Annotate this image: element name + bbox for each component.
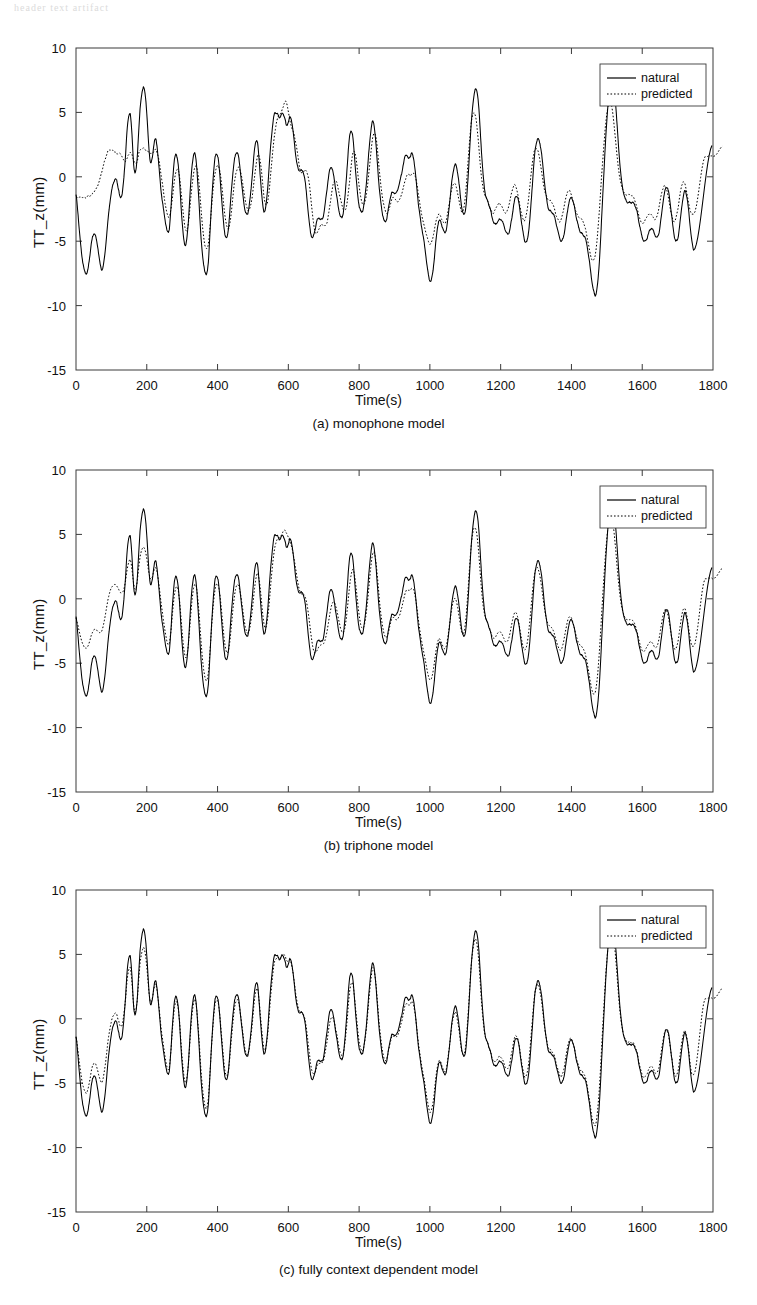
y-tick-label: -15 <box>47 1205 66 1220</box>
panel-a-ylabel: TT_z(mm) <box>30 176 47 248</box>
legend-label-natural: natural <box>641 913 679 927</box>
panel-c-plot: 0200400600800100012001400160018001050-5-… <box>0 842 757 1242</box>
panel-c-ylabel: TT_z(mm) <box>30 1018 47 1090</box>
y-tick-label: 5 <box>59 105 66 120</box>
y-tick-label: -5 <box>54 656 66 671</box>
x-tick-label: 1600 <box>628 378 657 393</box>
x-tick-label: 1400 <box>557 800 586 815</box>
x-tick-label: 0 <box>72 1220 79 1235</box>
panel-c: 0200400600800100012001400160018001050-5-… <box>0 842 757 1292</box>
x-tick-label: 600 <box>277 1220 299 1235</box>
legend-label-natural: natural <box>641 493 679 507</box>
y-tick-label: 0 <box>59 170 66 185</box>
panel-b-xlabel: Time(s) <box>0 814 757 830</box>
y-tick-label: 10 <box>52 883 66 898</box>
panel-b-plot: 0200400600800100012001400160018001050-5-… <box>0 422 757 822</box>
chart-svg: 0200400600800100012001400160018001050-5-… <box>0 842 757 1242</box>
x-tick-label: 1800 <box>699 378 728 393</box>
x-tick-label: 1200 <box>486 1220 515 1235</box>
x-tick-label: 1000 <box>415 1220 444 1235</box>
series-natural <box>76 499 712 718</box>
series-natural <box>76 77 712 296</box>
y-tick-label: -10 <box>47 721 66 736</box>
x-tick-label: 1200 <box>486 800 515 815</box>
x-tick-label: 1600 <box>628 800 657 815</box>
panel-a: 0200400600800100012001400160018001050-5-… <box>0 0 757 440</box>
x-tick-label: 200 <box>136 800 158 815</box>
panel-c-caption: (c) fully context dependent model <box>0 1262 757 1277</box>
legend: naturalpredicted <box>600 906 706 948</box>
y-tick-label: 0 <box>59 1012 66 1027</box>
x-tick-label: 1000 <box>415 378 444 393</box>
y-tick-label: -10 <box>47 1141 66 1156</box>
x-tick-label: 400 <box>207 378 229 393</box>
chart-svg: 0200400600800100012001400160018001050-5-… <box>0 422 757 822</box>
legend: naturalpredicted <box>600 486 706 528</box>
legend-label-predicted: predicted <box>641 509 692 523</box>
x-tick-label: 1000 <box>415 800 444 815</box>
x-tick-label: 200 <box>136 1220 158 1235</box>
legend-label-predicted: predicted <box>641 929 692 943</box>
x-tick-label: 800 <box>348 800 370 815</box>
y-tick-label: -15 <box>47 363 66 378</box>
x-tick-label: 0 <box>72 800 79 815</box>
panel-a-xlabel: Time(s) <box>0 392 757 408</box>
y-tick-label: 10 <box>52 41 66 56</box>
x-tick-label: 1400 <box>557 1220 586 1235</box>
x-tick-label: 600 <box>277 800 299 815</box>
x-tick-label: 1600 <box>628 1220 657 1235</box>
y-tick-label: 10 <box>52 463 66 478</box>
x-tick-label: 400 <box>207 1220 229 1235</box>
figure-page: header text artifact 0200400600800100012… <box>0 0 757 1305</box>
panel-b-ylabel: TT_z(mm) <box>30 598 47 670</box>
y-tick-label: -15 <box>47 785 66 800</box>
x-tick-label: 0 <box>72 378 79 393</box>
x-tick-label: 1800 <box>699 800 728 815</box>
y-tick-label: -5 <box>54 1076 66 1091</box>
panel-c-xlabel: Time(s) <box>0 1234 757 1250</box>
series-natural <box>76 919 712 1138</box>
legend-label-natural: natural <box>641 71 679 85</box>
x-tick-label: 1800 <box>699 1220 728 1235</box>
panel-a-plot: 0200400600800100012001400160018001050-5-… <box>0 0 757 400</box>
legend-label-predicted: predicted <box>641 87 692 101</box>
x-tick-label: 800 <box>348 378 370 393</box>
x-tick-label: 400 <box>207 800 229 815</box>
x-tick-label: 1400 <box>557 378 586 393</box>
x-tick-label: 200 <box>136 378 158 393</box>
legend: naturalpredicted <box>600 64 706 106</box>
y-tick-label: 5 <box>59 527 66 542</box>
x-tick-label: 800 <box>348 1220 370 1235</box>
x-tick-label: 600 <box>277 378 299 393</box>
y-tick-label: -10 <box>47 299 66 314</box>
panel-b: 0200400600800100012001400160018001050-5-… <box>0 422 757 862</box>
y-tick-label: -5 <box>54 234 66 249</box>
y-tick-label: 5 <box>59 947 66 962</box>
y-tick-label: 0 <box>59 592 66 607</box>
chart-svg: 0200400600800100012001400160018001050-5-… <box>0 0 757 400</box>
x-tick-label: 1200 <box>486 378 515 393</box>
